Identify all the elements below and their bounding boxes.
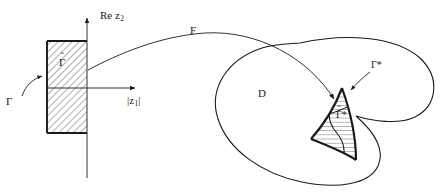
gamma-star-pointer-arrow [351, 72, 370, 90]
mapping-diagram-figure: Re z2 |z1| Γ ̂Γ F D Γ* ̂Γ* [0, 0, 443, 196]
image-region-hat-wrap: ̂Γ [336, 110, 342, 120]
vertical-axis-label: Re z2 [100, 10, 124, 23]
source-curve-label: Γ [6, 96, 12, 107]
image-region-label: ̂Γ* [336, 110, 347, 120]
source-region-hat-wrap: ̂Γ [59, 57, 65, 68]
gamma-pointer-arrow [22, 76, 42, 96]
image-curve-star: * [377, 59, 382, 70]
vertical-axis-subscript: 2 [120, 14, 124, 23]
domain-blob-outline [215, 38, 433, 186]
domain-label: D [258, 88, 266, 99]
image-region-star: * [342, 109, 347, 120]
map-arrow-label: F [190, 25, 196, 36]
image-curve-label: Γ* [371, 60, 382, 70]
source-rectangle [47, 41, 87, 133]
horizontal-axis-label: |z1| [127, 95, 141, 108]
source-rectangle-hatch [47, 41, 87, 133]
source-region-label: ̂Γ [59, 57, 65, 68]
image-region-triangle [300, 83, 396, 168]
diagram-canvas [0, 0, 443, 196]
